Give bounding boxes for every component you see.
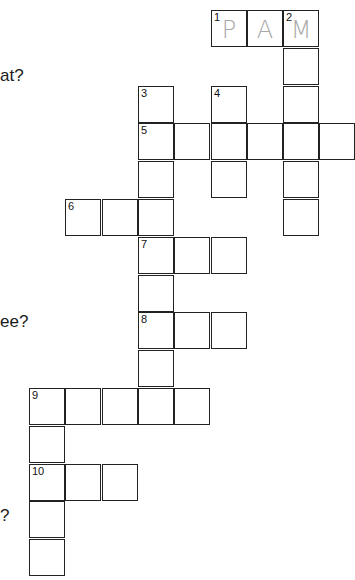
crossword-cell[interactable]: 4 bbox=[211, 86, 247, 123]
crossword-cell[interactable] bbox=[29, 426, 65, 463]
crossword-cell[interactable] bbox=[211, 161, 247, 198]
crossword-cell[interactable] bbox=[138, 350, 174, 387]
crossword-cell[interactable] bbox=[174, 123, 210, 160]
crossword-cell[interactable]: 10 bbox=[29, 464, 65, 501]
clue-number: 7 bbox=[141, 238, 147, 250]
crossword-cell[interactable] bbox=[65, 388, 101, 425]
clue-number: 3 bbox=[141, 87, 147, 99]
crossword-cell[interactable] bbox=[174, 237, 210, 274]
crossword-cell[interactable] bbox=[283, 123, 319, 160]
cell-letter: M bbox=[284, 16, 318, 44]
crossword-cell[interactable] bbox=[102, 464, 138, 501]
cell-letter: P bbox=[212, 16, 246, 44]
crossword-cell[interactable] bbox=[29, 539, 65, 576]
crossword-cell[interactable]: 5 bbox=[138, 123, 174, 160]
crossword-cell[interactable] bbox=[138, 161, 174, 198]
clue-number: 10 bbox=[32, 465, 44, 477]
crossword-cell[interactable]: 2M bbox=[283, 10, 319, 47]
crossword-cell[interactable] bbox=[211, 312, 247, 349]
cell-letter: A bbox=[248, 16, 282, 44]
crossword-cell[interactable]: 1P bbox=[211, 10, 247, 47]
crossword-cell[interactable]: A bbox=[247, 10, 283, 47]
clue-number: 9 bbox=[32, 389, 38, 401]
crossword-cell[interactable]: 6 bbox=[65, 199, 101, 236]
crossword-cell[interactable]: 8 bbox=[138, 312, 174, 349]
crossword-cell[interactable]: 7 bbox=[138, 237, 174, 274]
crossword-cell[interactable] bbox=[174, 312, 210, 349]
clue-number: 4 bbox=[214, 87, 220, 99]
crossword-cell[interactable] bbox=[247, 123, 283, 160]
clue-number: 6 bbox=[68, 200, 74, 212]
crossword-cell[interactable] bbox=[65, 464, 101, 501]
crossword-cell[interactable] bbox=[283, 161, 319, 198]
crossword-cell[interactable] bbox=[138, 275, 174, 312]
crossword-cell[interactable] bbox=[138, 199, 174, 236]
crossword-cell[interactable] bbox=[283, 199, 319, 236]
clue-number: 5 bbox=[141, 124, 147, 136]
crossword-cell[interactable] bbox=[102, 388, 138, 425]
crossword-cell[interactable] bbox=[283, 48, 319, 85]
clue-number: 8 bbox=[141, 313, 147, 325]
crossword-cell[interactable] bbox=[102, 199, 138, 236]
crossword-cell[interactable] bbox=[319, 123, 355, 160]
crossword-cell[interactable] bbox=[283, 86, 319, 123]
crossword-cell[interactable] bbox=[174, 388, 210, 425]
crossword-cell[interactable] bbox=[138, 388, 174, 425]
crossword-cell[interactable]: 3 bbox=[138, 86, 174, 123]
crossword-cell[interactable] bbox=[211, 237, 247, 274]
crossword-cell[interactable] bbox=[211, 123, 247, 160]
crossword-cell[interactable] bbox=[29, 501, 65, 538]
crossword-cell[interactable]: 9 bbox=[29, 388, 65, 425]
